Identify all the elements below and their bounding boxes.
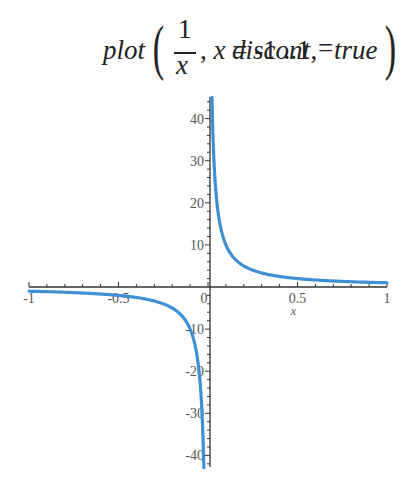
- curve-negative-branch: [29, 291, 204, 467]
- x-tick-label: -1: [23, 291, 35, 306]
- plot-area: -1-0.500.5140302010-10-20-30-40x: [0, 0, 414, 490]
- x-tick-label: 0: [201, 291, 208, 306]
- y-tick-label: -40: [185, 448, 204, 463]
- x-axis-label: x: [290, 304, 297, 318]
- curve-positive-branch: [212, 97, 387, 282]
- y-tick-label: 30: [190, 154, 204, 169]
- y-tick-label: 40: [190, 112, 204, 127]
- y-tick-label: 20: [190, 196, 204, 211]
- x-tick-label: 1: [384, 291, 391, 306]
- y-tick-label: 10: [190, 238, 204, 253]
